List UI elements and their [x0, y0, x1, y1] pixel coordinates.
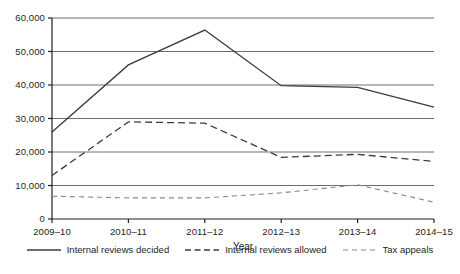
x-tick-label: 2011–12: [165, 226, 245, 237]
legend-label-tax-appeals: Tax appeals: [383, 244, 434, 255]
axis-ticks: [48, 18, 434, 223]
chart-legend: Internal reviews decided Internal review…: [0, 244, 460, 255]
gridlines: [52, 18, 434, 186]
y-tick-label: 30,000: [15, 113, 45, 124]
x-tick-label: 2014–15: [394, 226, 460, 237]
y-tick-label: 50,000: [15, 46, 45, 57]
series-lines: [52, 30, 434, 202]
y-tick-label: 60,000: [15, 12, 45, 23]
y-tick-label: 10,000: [15, 180, 45, 191]
legend-item-tax-appeals: Tax appeals: [343, 244, 434, 255]
y-tick-label: 40,000: [15, 79, 45, 90]
series-line-1: [52, 122, 434, 176]
legend-item-internal-reviews-decided: Internal reviews decided: [27, 244, 169, 255]
y-tick-label: 20,000: [15, 146, 45, 157]
legend-label-internal-reviews-decided: Internal reviews decided: [67, 244, 169, 255]
dashed-line-swatch: [185, 246, 219, 254]
legend-item-internal-reviews-allowed: Internal reviews allowed: [185, 244, 326, 255]
y-tick-label: 0: [40, 213, 45, 224]
x-tick-label: 2010–11: [88, 226, 168, 237]
line-chart: 010,00020,00030,00040,00050,00060,000 20…: [0, 0, 460, 274]
legend-label-internal-reviews-allowed: Internal reviews allowed: [225, 244, 326, 255]
series-line-0: [52, 30, 434, 132]
solid-line-swatch: [27, 246, 61, 254]
x-tick-label: 2013–14: [318, 226, 398, 237]
x-tick-label: 2012–13: [241, 226, 321, 237]
series-line-2: [52, 185, 434, 202]
x-tick-label: 2009–10: [12, 226, 92, 237]
dotted-line-swatch: [343, 246, 377, 254]
